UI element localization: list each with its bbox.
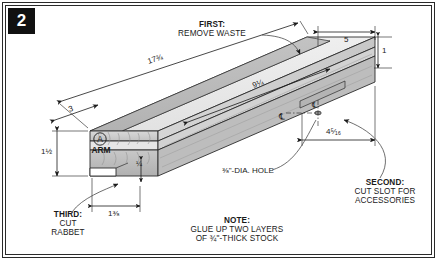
- centerline-symbol-right: ℄: [311, 101, 318, 110]
- part-tag-letter: A: [97, 134, 103, 144]
- centerline-symbol-left: ℄: [278, 112, 285, 122]
- dim-right-end: 1: [382, 47, 386, 56]
- dim-height: 1½: [41, 148, 52, 157]
- rabbet-notch: [90, 168, 116, 176]
- callout-note-line2: OF ¾"-THICK STOCK: [196, 234, 279, 243]
- callout-note: NOTE: GLUE UP TWO LAYERS OF ¾"-THICK STO…: [178, 216, 296, 244]
- hole-note: ⅜"-DIA. HOLE: [222, 167, 274, 176]
- callout-first: FIRST: REMOVE WASTE: [160, 20, 264, 38]
- leader-third: [72, 184, 118, 212]
- callout-first-heading: FIRST:: [160, 20, 264, 29]
- ext-overall-right: [300, 21, 308, 34]
- board-solid: [90, 37, 375, 176]
- dim-right-offset: 5: [344, 36, 348, 45]
- callout-note-line1: GLUE UP TWO LAYERS: [191, 225, 284, 234]
- callout-third-line2: RABBET: [51, 228, 84, 237]
- callout-note-heading: NOTE:: [178, 216, 296, 225]
- callout-second-heading: SECOND:: [333, 178, 437, 187]
- callout-second-line2: ACCESSORIES: [355, 196, 415, 205]
- callout-third-heading: THIRD:: [30, 210, 106, 219]
- leader-hole: [272, 120, 316, 170]
- callout-third: THIRD: CUT RABBET: [30, 210, 106, 238]
- callout-third-line1: CUT: [59, 219, 76, 228]
- ext-overall-left: [60, 104, 88, 128]
- figure-canvas: 2: [0, 0, 439, 262]
- dim-rabbet-width: 1⅜: [108, 210, 119, 219]
- hole-diameter-value: ⅜: [222, 166, 229, 175]
- dim-slot-depth: ¼: [136, 160, 142, 168]
- callout-second: SECOND: CUT SLOT FOR ACCESSORIES: [333, 178, 437, 206]
- dim-hole-centerline: 4⁵⁄₁₆: [326, 128, 341, 137]
- part-name-label: ARM: [84, 146, 118, 155]
- leader-second: [344, 120, 385, 178]
- callout-second-line1: CUT SLOT FOR: [355, 187, 416, 196]
- hole-note-text: "-DIA. HOLE: [229, 166, 274, 175]
- callout-first-body: REMOVE WASTE: [178, 29, 246, 38]
